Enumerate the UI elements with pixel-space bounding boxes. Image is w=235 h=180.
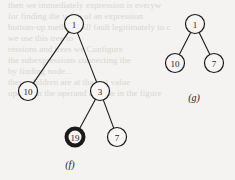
tree-node-10: 10: [19, 82, 38, 101]
tree-edge: [199, 33, 210, 55]
tree-edge: [80, 99, 96, 128]
node-value: 7: [115, 133, 120, 143]
node-value: 1: [72, 20, 77, 30]
node-value: 7: [212, 59, 217, 69]
tree-node-10: 10: [166, 54, 185, 73]
node-value: 1: [193, 20, 198, 30]
tree-g: 1107(g): [166, 15, 224, 105]
node-value: 19: [71, 133, 81, 143]
tree-node-1: 1: [65, 15, 84, 34]
tree-node-19: 19: [67, 129, 84, 146]
tree-edge: [179, 32, 190, 54]
tree-diagram: 1103197(f)1107(g): [0, 0, 235, 180]
tree-edge: [77, 33, 96, 82]
tree-node-3: 3: [91, 82, 110, 101]
tree-node-1: 1: [186, 15, 205, 34]
node-value: 3: [98, 87, 103, 97]
figure-label: (g): [188, 92, 200, 104]
figure-label: (f): [65, 159, 75, 171]
node-value: 10: [171, 59, 181, 69]
tree-edge: [33, 32, 68, 83]
tree-node-7: 7: [108, 128, 127, 147]
tree-node-7: 7: [205, 54, 224, 73]
tree-f: 1103197(f): [19, 15, 127, 172]
node-value: 10: [24, 87, 34, 97]
tree-edge: [103, 100, 113, 128]
